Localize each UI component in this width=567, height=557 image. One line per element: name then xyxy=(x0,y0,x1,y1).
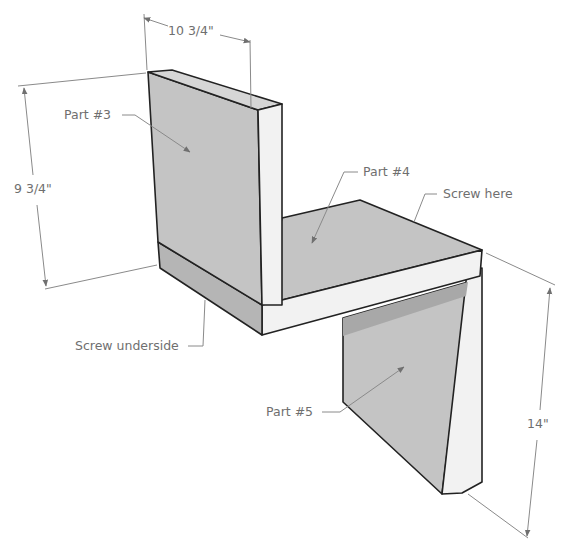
dimension-width-label: 10 3/4" xyxy=(168,23,214,38)
part-4-label: Part #4 xyxy=(363,164,410,179)
part-3-label: Part #3 xyxy=(64,107,111,122)
assembly-diagram: 10 3/4" 9 3/4" 14" Part #3 Part #4 Screw… xyxy=(0,0,567,557)
screw-here-label: Screw here xyxy=(443,186,513,201)
part-3-back xyxy=(148,70,282,335)
part-5-label: Part #5 xyxy=(266,404,313,419)
label-screw-underside: Screw underside xyxy=(75,300,205,353)
dimension-back-height: 9 3/4" xyxy=(14,73,157,289)
label-screw-here: Screw here xyxy=(414,186,513,222)
dimension-leg-height-label: 14" xyxy=(527,416,549,431)
part-3-side-edge xyxy=(258,104,282,305)
dimension-back-height-label: 9 3/4" xyxy=(14,181,52,196)
screw-underside-label: Screw underside xyxy=(75,338,179,353)
